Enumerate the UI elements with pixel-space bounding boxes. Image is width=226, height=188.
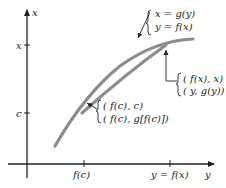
- top-point-annotation: ( f(x), x) ( y, g(y)): [166, 50, 225, 96]
- curve-annotation-line1: x = g(y): [155, 8, 195, 19]
- curve-annotation-line2: y = f(x): [154, 21, 193, 32]
- top-point-line2: ( y, g(y)): [183, 85, 225, 96]
- tick-label-fc: f(c): [72, 169, 90, 180]
- horizontal-axis: y f(c) y = f(x): [8, 160, 214, 180]
- top-point-line1: ( f(x), x): [183, 73, 223, 84]
- vertical-axis: x x c: [16, 7, 38, 178]
- bottom-point-annotation: ( f(c), c) ( f(c), g[f(c)]): [87, 100, 169, 124]
- tick-label-c: c: [16, 108, 22, 119]
- inverse-function-diagram: x x c y f(c) y = f(x) x = g(y) y = f(x) …: [0, 0, 226, 188]
- bottom-point-line2: ( f(c), g[f(c)]): [103, 113, 169, 124]
- tick-label-y-fx: y = f(x): [150, 169, 189, 180]
- horizontal-axis-label: y: [204, 169, 211, 180]
- vertical-axis-label: x: [32, 7, 38, 18]
- function-curve: [55, 39, 193, 146]
- tick-label-x: x: [16, 40, 22, 51]
- bottom-point-line1: ( f(c), c): [103, 100, 143, 111]
- curve-annotation: x = g(y) y = f(x): [138, 8, 195, 38]
